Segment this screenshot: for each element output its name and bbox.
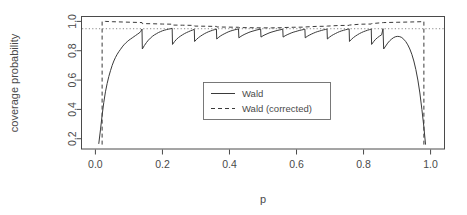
x-tick-label: 1.0 xyxy=(423,158,438,170)
x-tick-label: 0.8 xyxy=(356,158,371,170)
chart-figure: 0.00.20.40.60.81.0 0.20.40.60.81.0 p cov… xyxy=(0,0,467,215)
coverage-probability-plot: 0.00.20.40.60.81.0 0.20.40.60.81.0 p cov… xyxy=(0,0,467,215)
x-axis-title: p xyxy=(260,193,266,205)
x-tick-label: 0.0 xyxy=(88,158,103,170)
chart-legend: Wald Wald (corrected) xyxy=(204,83,331,120)
y-tick-label: 0.6 xyxy=(66,73,78,88)
x-tick-label: 0.2 xyxy=(155,158,170,170)
legend-label-wald-corrected: Wald (corrected) xyxy=(242,103,312,114)
y-tick-label: 1.0 xyxy=(66,14,78,29)
y-tick-label: 0.4 xyxy=(66,102,78,117)
x-tick-label: 0.4 xyxy=(222,158,237,170)
legend-label-wald: Wald xyxy=(242,88,263,99)
x-tick-label: 0.6 xyxy=(289,158,304,170)
y-axis-title: coverage probability xyxy=(8,33,20,132)
y-tick-label: 0.2 xyxy=(66,131,78,146)
y-tick-label: 0.8 xyxy=(66,43,78,58)
